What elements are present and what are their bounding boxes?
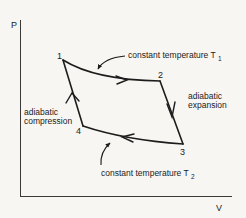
point-4-label: 4 — [76, 126, 81, 136]
annotation-isotherm-t1: constant temperature T 1 — [98, 50, 222, 69]
y-axis-label: P — [11, 20, 17, 30]
isotherm-t2-text: constant temperature T 2 — [101, 168, 195, 180]
annotation-adiabatic-expansion: adiabatic expansion — [188, 91, 227, 110]
carnot-cycle-diagram: P V 1 2 3 — [0, 0, 246, 218]
pointer-arrow-icon — [101, 143, 110, 165]
x-axis-label: V — [216, 203, 222, 213]
adiabatic-expansion-line2: expansion — [188, 100, 227, 110]
arrow-right-icon — [116, 76, 127, 84]
point-2-label: 2 — [158, 70, 163, 80]
direction-arrows — [66, 76, 175, 142]
adiabatic-expansion-curve — [160, 81, 183, 144]
isotherm-t1-curve — [63, 60, 160, 81]
adiabatic-compression-line2: compression — [24, 116, 72, 126]
annotation-adiabatic-compression: adiabatic compression — [24, 107, 72, 126]
point-3-label: 3 — [180, 147, 185, 157]
pointer-arrow-icon — [98, 56, 125, 69]
point-1-label: 1 — [57, 51, 62, 61]
isotherm-t1-text: constant temperature T 1 — [128, 50, 222, 62]
arrow-up-icon — [66, 93, 79, 103]
